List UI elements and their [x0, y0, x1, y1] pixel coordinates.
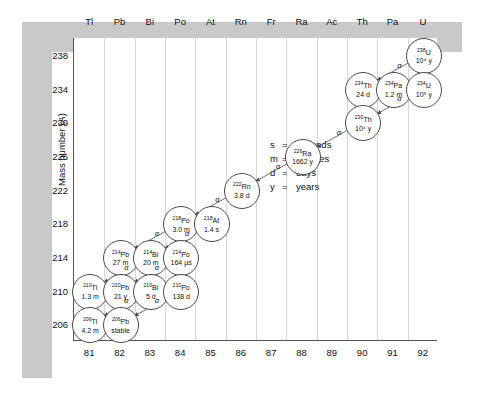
nuclide-isotope-label: 210Bi [143, 281, 158, 293]
nuclide-halflife-label: 164 µs [171, 259, 192, 268]
element-header-tl: Tl [74, 16, 104, 27]
nuclide-halflife-label: 10⁵ y [416, 91, 432, 100]
element-header-at: At [196, 16, 226, 27]
nuclide-halflife-label: 3.8 d [234, 192, 250, 201]
nuclide-isotope-label: 218At [204, 214, 219, 226]
decay-arrow-Ra226-to-Rn222 [256, 164, 287, 181]
decay-mode-label-U238: α [397, 60, 401, 69]
nuclide-isotope-label: 226Ra [294, 147, 312, 159]
nuclide-u238[interactable]: 238U10⁹ y [406, 38, 442, 74]
x-tick-86: 86 [227, 347, 255, 358]
decay-mode-label-Rn222: α [215, 195, 219, 204]
element-header-ac: Ac [317, 16, 347, 27]
nuclide-halflife-label: 24 d [356, 91, 370, 100]
decay-mode-label-Bi210: α [124, 296, 128, 305]
nuclide-isotope-label: 230Th [355, 113, 372, 125]
y-tick-218: 218 [34, 218, 68, 229]
nuclide-halflife-label: stable [111, 327, 130, 336]
element-header-fr: Fr [256, 16, 286, 27]
nuclide-po214[interactable]: 214Po164 µs [163, 240, 199, 276]
nuclide-isotope-label: 210Po [173, 281, 190, 293]
nuclide-halflife-label: 1662 y [292, 158, 313, 167]
nuclide-u234[interactable]: 234U10⁵ y [406, 72, 442, 108]
x-tick-87: 87 [257, 347, 285, 358]
nuclide-isotope-label: 214Po [173, 248, 190, 260]
nuclide-isotope-label: 210Tl [83, 281, 98, 293]
nuclide-pb206[interactable]: 206Pbstable [103, 307, 139, 343]
x-tick-92: 92 [409, 347, 437, 358]
decay-mode-label-Th230: α [337, 128, 341, 137]
nuclide-isotope-label: 238U [417, 46, 431, 58]
decay-mode-label-Po218: α [155, 229, 159, 238]
x-tick-88: 88 [288, 347, 316, 358]
element-header-th: Th [347, 16, 377, 27]
element-header-ra: Ra [287, 16, 317, 27]
x-tick-85: 85 [197, 347, 225, 358]
decay-mode-label-Po214: α [155, 262, 159, 271]
nuclide-isotope-label: 206Pb [112, 315, 129, 327]
element-header-rn: Rn [226, 16, 256, 27]
x-tick-84: 84 [166, 347, 194, 358]
element-header-pa: Pa [378, 16, 408, 27]
nuclide-halflife-label: 1.3 m [81, 293, 99, 302]
nuclide-isotope-label: 222Rn [233, 180, 251, 192]
nuclide-halflife-label: 1.4 s [204, 226, 219, 235]
y-tick-206: 206 [34, 319, 68, 330]
x-tick-89: 89 [318, 347, 346, 358]
decay-mode-label-At218: α [185, 229, 189, 238]
nuclide-isotope-label: 234U [417, 79, 431, 91]
element-header-po: Po [165, 16, 195, 27]
nuclide-halflife-label: 10⁴ y [355, 125, 371, 134]
nuclide-isotope-label: 214Bi [143, 248, 158, 260]
decay-arrow-Th230-to-Ra226 [316, 130, 347, 147]
nuclide-ra226[interactable]: 226Ra1662 y [285, 139, 321, 175]
y-tick-238: 238 [34, 49, 68, 60]
element-header-bi: Bi [135, 16, 165, 27]
nuclide-po210[interactable]: 210Po138 d [163, 274, 199, 310]
decay-mode-label-Ra226: α [276, 161, 280, 170]
nuclide-at218[interactable]: 218At1.4 s [194, 206, 230, 242]
nuclide-isotope-label: 234Th [355, 79, 372, 91]
y-tick-214: 214 [34, 251, 68, 262]
y-tick-210: 210 [34, 285, 68, 296]
decay-mode-label-U234: α [397, 94, 401, 103]
nuclide-halflife-label: 4.2 m [81, 327, 99, 336]
nuclide-isotope-label: 206Tl [83, 315, 98, 327]
decay-mode-label-Po210: α [155, 296, 159, 305]
nuclide-isotope-label: 210Pb [112, 281, 129, 293]
plot-area: 238U10⁹ y234Th24 d234Pa1.2 m234U10⁵ y230… [73, 38, 437, 341]
nuclide-isotope-label: 218Po [173, 214, 190, 226]
element-header-u: U [408, 16, 438, 27]
x-tick-83: 83 [136, 347, 164, 358]
x-tick-82: 82 [106, 347, 134, 358]
nuclide-isotope-label: 214Pb [112, 248, 129, 260]
x-tick-81: 81 [75, 347, 103, 358]
nuclide-rn222[interactable]: 222Rn3.8 d [224, 173, 260, 209]
decay-mode-label-Bi214: α [124, 262, 128, 271]
y-tick-234: 234 [34, 83, 68, 94]
nuclide-halflife-label: 10⁹ y [416, 57, 432, 66]
decay-series-figure: 238U10⁹ y234Th24 d234Pa1.2 m234U10⁵ y230… [0, 0, 483, 399]
nuclide-isotope-label: 234Pa [385, 79, 402, 91]
x-tick-91: 91 [379, 347, 407, 358]
element-header-pb: Pb [105, 16, 135, 27]
x-tick-90: 90 [348, 347, 376, 358]
y-axis-label: Mass number (A) [56, 113, 67, 186]
nuclide-halflife-label: 138 d [172, 293, 190, 302]
